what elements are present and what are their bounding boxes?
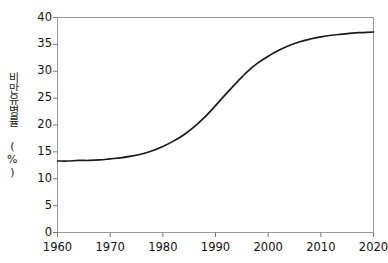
data-line-obesity-prevalence: [58, 32, 374, 161]
plot-area: [0, 0, 388, 263]
axis-tickmarks: [53, 18, 374, 238]
chart-figure: 비만유병률 (%) 0510152025303540 1960197019801…: [0, 0, 388, 263]
axis-frame: [58, 18, 374, 233]
